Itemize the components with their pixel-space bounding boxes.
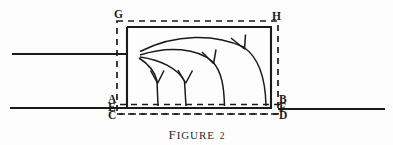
streamline-4-arrowhead: [151, 71, 165, 84]
caption-word: FIGURE: [169, 129, 215, 141]
figure-2-diagram: G H A E C B F D FIGURE2: [0, 0, 393, 145]
figure-caption: FIGURE2: [0, 125, 393, 143]
label-G: G: [114, 9, 123, 20]
caption-number: 2: [220, 131, 225, 141]
dashed-rectangle-GHDC: [117, 21, 278, 114]
label-D: D: [279, 110, 287, 121]
caption-word-first: F: [169, 127, 177, 142]
label-H: H: [272, 11, 281, 22]
solid-rectangle-walls: [127, 27, 271, 108]
streamline-1-outermost: [140, 37, 266, 106]
caption-word-rest: IGURE: [177, 129, 215, 141]
label-C: C: [108, 110, 116, 121]
diagram-canvas: [0, 0, 393, 145]
streamline-1-arrowhead: [231, 35, 246, 50]
streamline-4-innermost: [139, 58, 158, 106]
streamline-3-arrowhead: [178, 70, 193, 84]
